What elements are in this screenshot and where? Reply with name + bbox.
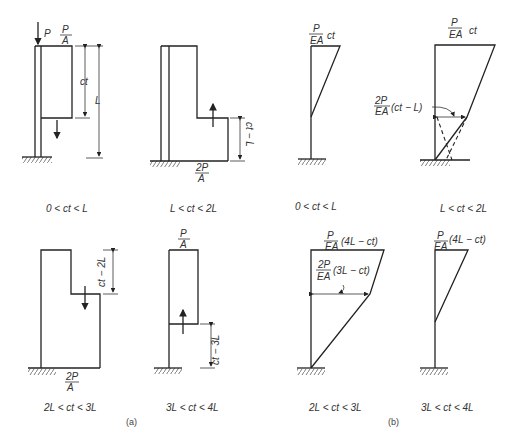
svg-text:2P: 2P bbox=[195, 162, 209, 173]
panel-a1: P P A ct L bbox=[22, 22, 103, 163]
panel-a2: ct − L 2P A bbox=[150, 46, 255, 184]
range-label-a1: 0 < ct < L bbox=[46, 203, 88, 214]
svg-text:ct: ct bbox=[327, 30, 336, 41]
range-label-b4: 3L < ct < 4L bbox=[421, 402, 474, 413]
range-label-b3: 2L < ct < 3L bbox=[308, 402, 362, 413]
svg-text:ct: ct bbox=[469, 25, 478, 36]
ground-hatch bbox=[154, 368, 182, 374]
range-label-a2: L < ct < 2L bbox=[170, 203, 217, 214]
svg-text:P: P bbox=[313, 23, 320, 34]
svg-text:A: A bbox=[66, 382, 74, 393]
ground-hatch bbox=[298, 159, 326, 165]
range-label-a3: 2L < ct < 3L bbox=[43, 402, 97, 413]
stress-wave-figure: P P A ct L ct − L 2P A P EA ct bbox=[0, 0, 514, 447]
svg-text:ct − 3L: ct − 3L bbox=[210, 335, 221, 365]
svg-text:P: P bbox=[437, 230, 444, 241]
svg-text:(4L − ct): (4L − ct) bbox=[341, 236, 378, 247]
svg-text:ct − 2L: ct − 2L bbox=[96, 257, 107, 287]
svg-text:P: P bbox=[62, 24, 69, 35]
svg-text:ct: ct bbox=[80, 76, 89, 87]
svg-text:A: A bbox=[61, 35, 69, 46]
svg-text:EA: EA bbox=[449, 29, 463, 40]
svg-text:P: P bbox=[327, 230, 334, 241]
ground-hatch bbox=[420, 369, 448, 375]
svg-text:L: L bbox=[95, 95, 101, 106]
svg-text:2P: 2P bbox=[65, 371, 79, 382]
svg-text:EA: EA bbox=[325, 241, 339, 252]
panel-a3: ct − 2L 2P A bbox=[28, 250, 118, 393]
range-label-a4: 3L < ct < 4L bbox=[166, 402, 219, 413]
svg-text:EA: EA bbox=[375, 106, 389, 117]
part-label-a: (a) bbox=[126, 417, 137, 427]
displacement-diagram bbox=[311, 46, 340, 117]
svg-text:P: P bbox=[180, 228, 187, 239]
svg-text:EA: EA bbox=[434, 241, 448, 252]
ground-hatch bbox=[420, 160, 450, 166]
svg-text:A: A bbox=[179, 239, 187, 250]
part-label-b: (b) bbox=[388, 417, 399, 427]
svg-text:2P: 2P bbox=[374, 95, 388, 106]
svg-text:(3L − ct): (3L − ct) bbox=[333, 265, 370, 276]
svg-text:P: P bbox=[451, 17, 458, 28]
panel-b4: P EA (4L − ct) bbox=[420, 230, 486, 375]
displacement-diagram bbox=[435, 45, 495, 160]
ground-hatch bbox=[28, 369, 56, 375]
svg-text:A: A bbox=[197, 173, 205, 184]
range-label-b2: L < ct < 2L bbox=[440, 203, 487, 214]
ground-hatch bbox=[297, 369, 325, 375]
svg-text:EA: EA bbox=[317, 271, 331, 282]
svg-text:(ct − L): (ct − L) bbox=[391, 102, 422, 113]
ground-hatch bbox=[22, 157, 52, 163]
svg-text:EA: EA bbox=[310, 35, 324, 46]
displacement-diagram bbox=[435, 250, 468, 322]
stress-block bbox=[41, 250, 100, 368]
panel-a4: P A ct − 3L bbox=[154, 228, 221, 374]
svg-text:ct − L: ct − L bbox=[244, 122, 255, 147]
panel-b1: P EA ct bbox=[298, 23, 340, 165]
svg-text:2P: 2P bbox=[317, 259, 331, 270]
stress-block bbox=[161, 46, 228, 161]
ground-hatch bbox=[150, 161, 180, 167]
range-label-b1: 0 < ct < L bbox=[295, 201, 337, 212]
svg-text:(4L − ct): (4L − ct) bbox=[449, 234, 486, 245]
panel-b2: P EA ct 2P EA (ct − L) bbox=[374, 17, 495, 166]
panel-b3: P EA (4L − ct) 2P EA (3L − ct) bbox=[297, 230, 384, 375]
load-label: P bbox=[44, 28, 51, 39]
